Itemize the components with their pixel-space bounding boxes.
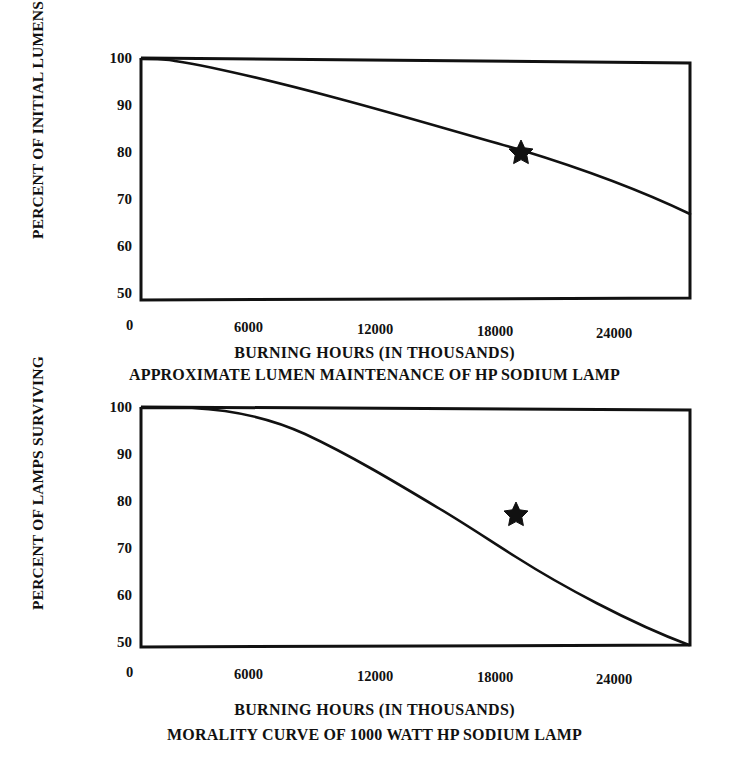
y-tick-80: 80 — [88, 494, 132, 509]
figure-sheet: { "page": { "background_color": "#ffffff… — [0, 0, 749, 762]
x-tick-12000: 12000 — [357, 322, 393, 337]
y-axis-label-lumen: PERCENT OF INITIAL LUMENS — [29, 19, 47, 239]
plot-frame — [141, 407, 690, 647]
figure-mortality-curve: PERCENT OF LAMPS SURVIVING 100 90 80 70 … — [0, 381, 749, 762]
y-tick-70: 70 — [88, 541, 132, 556]
y-tick-70: 70 — [88, 192, 132, 207]
plot-area-mortality: PERCENT OF LAMPS SURVIVING 100 90 80 70 … — [0, 381, 749, 721]
y-tick-90: 90 — [88, 447, 132, 462]
y-tick-50: 50 — [88, 286, 132, 301]
x-tick-6000: 6000 — [234, 667, 263, 682]
x-tick-18000: 18000 — [477, 324, 513, 339]
x-tick-0: 0 — [126, 665, 133, 680]
star-marker — [504, 502, 528, 526]
plot-area-lumen: PERCENT OF INITIAL LUMENS 100 90 80 70 6… — [0, 0, 749, 340]
figure-lumen-maintenance: PERCENT OF INITIAL LUMENS 100 90 80 70 6… — [0, 0, 749, 381]
x-tick-0: 0 — [126, 318, 133, 333]
x-tick-12000: 12000 — [357, 669, 393, 684]
y-tick-100: 100 — [88, 400, 132, 415]
y-tick-100: 100 — [88, 51, 132, 66]
lumen-curve — [141, 59, 690, 214]
x-tick-24000: 24000 — [596, 326, 632, 341]
caption-mortality: MORALITY CURVE OF 1000 WATT HP SODIUM LA… — [0, 726, 749, 744]
x-tick-6000: 6000 — [234, 320, 263, 335]
x-tick-18000: 18000 — [477, 670, 513, 685]
y-axis-label-mortality: PERCENT OF LAMPS SURVIVING — [29, 390, 47, 610]
x-axis-label-lumen: BURNING HOURS (IN THOUSANDS) — [0, 344, 749, 362]
mortality-curve — [141, 408, 689, 645]
star-marker — [509, 140, 533, 164]
y-tick-90: 90 — [88, 98, 132, 113]
y-tick-60: 60 — [88, 588, 132, 603]
y-tick-80: 80 — [88, 145, 132, 160]
y-tick-50: 50 — [88, 635, 132, 650]
x-tick-24000: 24000 — [596, 672, 632, 687]
y-tick-60: 60 — [88, 239, 132, 254]
x-axis-label-mortality: BURNING HOURS (IN THOUSANDS) — [0, 701, 749, 719]
